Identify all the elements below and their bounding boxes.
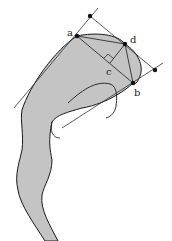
label-d: d	[130, 34, 137, 45]
label-c: c	[106, 66, 112, 77]
point-a	[75, 34, 79, 38]
inner-curve-lower	[51, 122, 60, 138]
diagram-canvas: a d c b	[0, 0, 172, 241]
point-d	[123, 42, 127, 46]
label-b: b	[134, 87, 140, 98]
point-top	[88, 14, 92, 18]
point-b	[131, 81, 135, 85]
silhouette-shape	[17, 34, 142, 241]
point-right	[153, 68, 157, 72]
label-a: a	[67, 27, 73, 38]
